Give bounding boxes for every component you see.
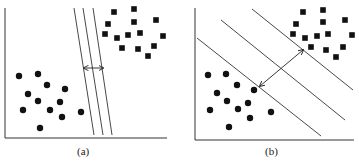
class-circle-point bbox=[268, 109, 274, 115]
panel-a-content bbox=[16, 6, 166, 135]
class-circle-point bbox=[57, 99, 63, 105]
class-circle-point bbox=[47, 107, 53, 113]
class-circle-point bbox=[35, 71, 41, 77]
class-square-point bbox=[320, 7, 326, 13]
margin-line bbox=[197, 38, 321, 136]
margin-line bbox=[74, 8, 94, 135]
class-square-point bbox=[135, 46, 141, 52]
hyperplane-line bbox=[83, 8, 103, 135]
class-circle-point bbox=[214, 90, 220, 96]
panel-b-label: (b) bbox=[265, 145, 278, 157]
class-square-point bbox=[293, 21, 299, 27]
class-circle-point bbox=[247, 115, 253, 121]
class-square-point bbox=[160, 33, 166, 39]
class-circle-point bbox=[16, 73, 22, 79]
class-square-point bbox=[125, 32, 131, 38]
class-square-point bbox=[320, 19, 326, 25]
class-square-point bbox=[314, 33, 320, 39]
class-circle-point bbox=[37, 125, 43, 131]
panel-a-label: (a) bbox=[77, 145, 89, 157]
class-square-point bbox=[308, 44, 314, 50]
class-square-point bbox=[323, 47, 329, 53]
panel-b-content bbox=[197, 7, 355, 136]
class-circle-point bbox=[234, 82, 240, 88]
class-square-point bbox=[131, 19, 137, 25]
class-circle-point bbox=[44, 82, 50, 88]
class-circle-point bbox=[251, 87, 257, 93]
class-square-point bbox=[114, 35, 120, 41]
class-square-point bbox=[340, 44, 346, 50]
class-circle-point bbox=[245, 100, 251, 106]
class-square-point bbox=[333, 54, 339, 60]
class-circle-point bbox=[62, 86, 68, 92]
class-square-point bbox=[119, 45, 125, 51]
class-circle-point bbox=[25, 91, 31, 97]
class-circle-point bbox=[224, 98, 230, 104]
class-square-point bbox=[302, 35, 308, 41]
class-circle-point bbox=[35, 98, 41, 104]
class-circle-point bbox=[235, 106, 241, 112]
class-square-point bbox=[342, 17, 348, 23]
class-square-point bbox=[111, 9, 117, 15]
class-circle-point bbox=[226, 124, 232, 130]
class-square-point bbox=[102, 31, 108, 37]
class-circle-point bbox=[20, 107, 26, 113]
class-square-point bbox=[145, 53, 151, 59]
class-square-point bbox=[151, 43, 157, 49]
svm-margin-diagram bbox=[0, 0, 359, 161]
class-square-point bbox=[131, 6, 137, 12]
class-square-point bbox=[300, 9, 306, 15]
class-square-point bbox=[349, 32, 355, 38]
class-circle-point bbox=[223, 71, 229, 77]
class-square-point bbox=[153, 17, 159, 23]
class-circle-point bbox=[59, 114, 65, 120]
class-square-point bbox=[290, 31, 296, 37]
class-square-point bbox=[105, 21, 111, 27]
class-square-point bbox=[325, 31, 331, 37]
class-circle-point bbox=[78, 109, 84, 115]
class-circle-point bbox=[207, 107, 213, 113]
margin-line bbox=[93, 8, 112, 135]
class-square-point bbox=[137, 30, 143, 36]
margin-line bbox=[252, 9, 353, 90]
class-circle-point bbox=[205, 72, 211, 78]
